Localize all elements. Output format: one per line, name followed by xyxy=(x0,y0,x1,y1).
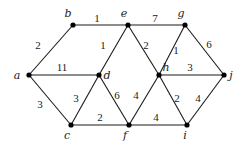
edge-weight-a-d: 11 xyxy=(57,61,68,73)
edge-a-c xyxy=(29,75,71,125)
node-label-e: e xyxy=(121,7,128,20)
node-a xyxy=(26,72,31,77)
edge-weight-a-c: 3 xyxy=(37,98,43,110)
edge-weight-e-h: 2 xyxy=(143,39,149,51)
node-i xyxy=(184,122,189,127)
edge-weight-b-e: 1 xyxy=(94,12,100,24)
node-g xyxy=(182,22,187,27)
node-b xyxy=(70,22,75,27)
node-c xyxy=(68,122,73,127)
node-d xyxy=(96,72,101,77)
edge-i-j xyxy=(187,75,224,125)
edge-weight-f-h: 4 xyxy=(133,89,139,101)
node-h xyxy=(156,72,161,77)
node-label-j: j xyxy=(226,69,233,82)
edge-h-i xyxy=(159,75,187,125)
node-e xyxy=(125,22,130,27)
edge-weight-h-j: 3 xyxy=(187,61,193,73)
node-label-f: f xyxy=(122,129,129,142)
edge-weight-a-b: 2 xyxy=(35,39,41,51)
weighted-graph: 211721611333642424 abcdefghij xyxy=(0,0,249,149)
node-label-g: g xyxy=(177,7,184,20)
edge-weight-i-j: 4 xyxy=(195,92,201,104)
node-label-i: i xyxy=(183,129,187,142)
node-label-a: a xyxy=(14,69,21,82)
node-f xyxy=(126,122,131,127)
edge-weight-d-f: 6 xyxy=(114,89,120,101)
edge-weight-g-h: 1 xyxy=(173,44,179,56)
edge-weight-g-j: 6 xyxy=(206,38,212,50)
node-label-b: b xyxy=(64,7,71,20)
edge-weight-c-d: 3 xyxy=(73,92,79,104)
edge-weight-h-i: 2 xyxy=(174,92,180,104)
node-label-h: h xyxy=(162,61,169,74)
edge-weight-e-d: 1 xyxy=(100,39,106,51)
edge-weight-f-i: 4 xyxy=(153,111,159,123)
edge-weights-layer: 211721611333642424 xyxy=(35,12,212,123)
node-label-d: d xyxy=(103,69,110,82)
edge-weight-e-g: 7 xyxy=(152,12,158,24)
node-j xyxy=(221,72,226,77)
edges-layer xyxy=(29,25,224,125)
node-label-c: c xyxy=(64,129,70,142)
edge-weight-c-f: 2 xyxy=(97,111,103,123)
